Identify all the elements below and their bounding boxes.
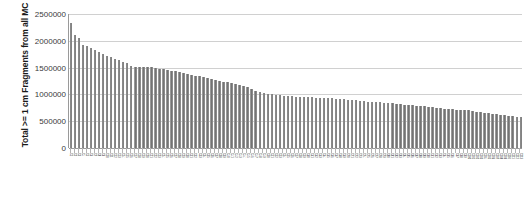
bar[interactable] — [383, 103, 385, 148]
bar[interactable] — [271, 94, 273, 148]
bar[interactable] — [395, 104, 397, 148]
bar[interactable] — [491, 114, 493, 148]
bar[interactable] — [291, 96, 293, 148]
bar[interactable] — [455, 110, 457, 148]
bar[interactable] — [495, 114, 497, 148]
bar[interactable] — [323, 98, 325, 148]
bar[interactable] — [283, 96, 285, 148]
bar[interactable] — [451, 109, 453, 148]
bar[interactable] — [142, 67, 144, 148]
bar[interactable] — [331, 98, 333, 148]
bar[interactable] — [467, 110, 469, 148]
bar[interactable] — [319, 98, 321, 148]
bar[interactable] — [263, 93, 265, 148]
bar[interactable] — [339, 99, 341, 148]
bar[interactable] — [347, 100, 349, 149]
bar[interactable] — [222, 82, 224, 148]
bar[interactable] — [94, 50, 96, 148]
bar[interactable] — [242, 86, 244, 148]
bar[interactable] — [194, 76, 196, 148]
bar[interactable] — [74, 35, 76, 148]
bar[interactable] — [487, 113, 489, 148]
bar[interactable] — [423, 106, 425, 148]
bar[interactable] — [275, 95, 277, 148]
bar[interactable] — [182, 73, 184, 148]
bar[interactable] — [234, 84, 236, 148]
bar[interactable] — [102, 54, 104, 148]
bar[interactable] — [355, 100, 357, 148]
bar[interactable] — [311, 97, 313, 148]
bar[interactable] — [307, 97, 309, 148]
bar[interactable] — [520, 117, 522, 148]
bar[interactable] — [106, 56, 108, 148]
bar[interactable] — [226, 82, 228, 148]
bar[interactable] — [447, 109, 449, 148]
bar[interactable] — [379, 102, 381, 148]
bar[interactable] — [507, 116, 509, 148]
bar[interactable] — [359, 101, 361, 148]
bar[interactable] — [287, 96, 289, 148]
bar[interactable] — [419, 106, 421, 148]
bar[interactable] — [198, 76, 200, 148]
bar[interactable] — [299, 97, 301, 148]
bar[interactable] — [238, 85, 240, 148]
bar[interactable] — [166, 70, 168, 148]
bar[interactable] — [90, 48, 92, 148]
bar[interactable] — [162, 69, 164, 148]
bar[interactable] — [516, 117, 518, 148]
bar[interactable] — [435, 108, 437, 148]
bar[interactable] — [230, 83, 232, 148]
bar[interactable] — [130, 66, 132, 148]
bar[interactable] — [202, 77, 204, 148]
bar[interactable] — [70, 23, 72, 148]
bar[interactable] — [150, 67, 152, 148]
bar[interactable] — [479, 112, 481, 148]
bar[interactable] — [98, 52, 100, 148]
bar[interactable] — [371, 102, 373, 148]
bar[interactable] — [78, 38, 80, 148]
bar[interactable] — [122, 62, 124, 148]
bar[interactable] — [443, 109, 445, 148]
bar[interactable] — [190, 75, 192, 148]
bar[interactable] — [114, 59, 116, 148]
bar[interactable] — [174, 71, 176, 148]
bar[interactable] — [170, 71, 172, 148]
bar[interactable] — [267, 94, 269, 148]
bar[interactable] — [375, 102, 377, 148]
bar[interactable] — [254, 91, 256, 148]
bar[interactable] — [218, 81, 220, 148]
bar[interactable] — [126, 63, 128, 148]
bar[interactable] — [118, 60, 120, 148]
bar[interactable] — [475, 112, 477, 148]
bar[interactable] — [178, 72, 180, 148]
bar[interactable] — [186, 74, 188, 149]
bar[interactable] — [158, 69, 160, 148]
bar[interactable] — [403, 105, 405, 148]
bar[interactable] — [295, 97, 297, 148]
bar[interactable] — [206, 78, 208, 148]
bar[interactable] — [138, 67, 140, 148]
bar[interactable] — [427, 107, 429, 148]
bar[interactable] — [259, 92, 261, 148]
bar[interactable] — [335, 99, 337, 148]
bar[interactable] — [439, 108, 441, 148]
bar[interactable] — [499, 115, 501, 148]
bar[interactable] — [82, 45, 84, 148]
bar[interactable] — [363, 101, 365, 148]
bar[interactable] — [391, 103, 393, 148]
bar[interactable] — [511, 116, 513, 148]
bar[interactable] — [471, 111, 473, 148]
bar[interactable] — [279, 95, 281, 148]
bar[interactable] — [110, 57, 112, 148]
bar[interactable] — [343, 99, 345, 148]
bar[interactable] — [415, 106, 417, 148]
bar[interactable] — [134, 67, 136, 148]
bar[interactable] — [407, 105, 409, 148]
bar[interactable] — [463, 110, 465, 148]
bar[interactable] — [367, 102, 369, 148]
bar[interactable] — [146, 67, 148, 148]
bar[interactable] — [303, 97, 305, 148]
bar[interactable] — [351, 100, 353, 148]
bar[interactable] — [503, 115, 505, 148]
bar[interactable] — [431, 107, 433, 148]
